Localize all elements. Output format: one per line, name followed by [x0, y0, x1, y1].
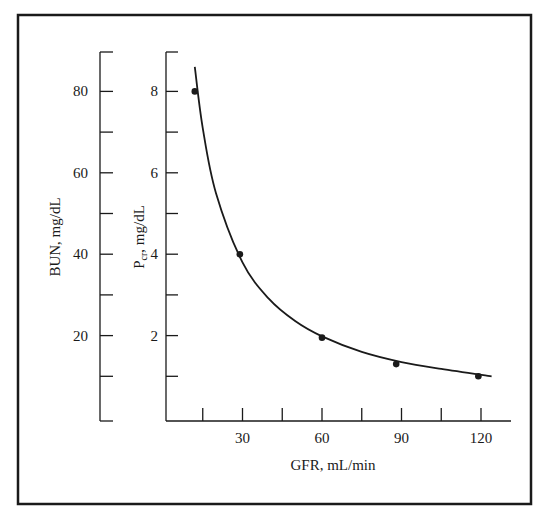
gfr-axis: [166, 408, 511, 421]
fitted-curve: [195, 67, 492, 376]
bun-pcr-vs-gfr-chart: 80604020 BUN, mg/dL 8642 Pcr, mg/dL 3060…: [0, 0, 549, 513]
data-point: [393, 361, 400, 368]
pcr-tick-label: 4: [151, 246, 159, 262]
bun-axis-label: BUN, mg/dL: [47, 197, 63, 276]
data-point: [192, 88, 199, 95]
data-points: [192, 88, 482, 380]
gfr-tick-label: 90: [394, 430, 409, 446]
bun-axis: [100, 52, 113, 421]
pcr-tick-labels: 8642: [151, 83, 159, 343]
data-point: [475, 373, 482, 380]
gfr-tick-label: 120: [470, 430, 493, 446]
bun-tick-labels: 80604020: [73, 83, 88, 343]
gfr-tick-labels: 306090120: [235, 430, 492, 446]
gfr-tick-label: 60: [315, 430, 330, 446]
bun-tick-label: 60: [73, 165, 88, 181]
gfr-axis-label: GFR, mL/min: [290, 457, 376, 473]
bun-tick-label: 40: [73, 246, 88, 262]
pcr-axis: [166, 52, 178, 421]
figure-frame: [18, 15, 531, 504]
bun-tick-label: 20: [73, 328, 88, 344]
gfr-tick-label: 30: [235, 430, 250, 446]
bun-tick-label: 80: [73, 83, 88, 99]
data-point: [319, 334, 326, 341]
data-point: [237, 251, 244, 258]
pcr-tick-label: 2: [151, 328, 159, 344]
pcr-tick-label: 6: [151, 165, 159, 181]
pcr-tick-label: 8: [151, 83, 159, 99]
pcr-axis-label: Pcr, mg/dL: [131, 205, 149, 269]
